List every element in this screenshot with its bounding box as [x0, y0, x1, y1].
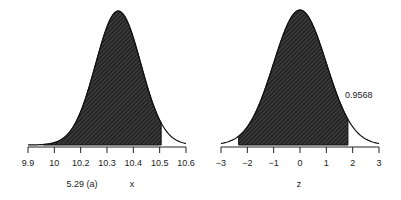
tick-label: 0 [297, 158, 302, 168]
left-x-label: x [130, 179, 135, 189]
tick-label: −2 [242, 158, 252, 168]
right-plot: −3−2−10123 0.9568 z [216, 10, 382, 189]
right-annotation: 0.9568 [345, 90, 373, 100]
tick-label: 3 [376, 158, 381, 168]
tick-label: 10.2 [72, 158, 90, 168]
tick-label: 9.9 [22, 158, 35, 168]
tick-label: 10.3 [98, 158, 116, 168]
tick-label: 1 [324, 158, 329, 168]
tick-label: 10.4 [125, 158, 143, 168]
tick-label: 10.5 [151, 158, 169, 168]
left-plot: 9.91010.210.310.410.510.6 5.29 (a) x [22, 11, 195, 189]
figure: 9.91010.210.310.410.510.6 5.29 (a) x −3−… [0, 0, 401, 200]
left-axis-ticks: 9.91010.210.310.410.510.6 [22, 147, 195, 168]
left-caption: 5.29 (a) [66, 179, 97, 189]
right-x-label: z [297, 179, 302, 189]
tick-label: 2 [350, 158, 355, 168]
tick-label: 10 [49, 158, 59, 168]
tick-label: −3 [216, 158, 226, 168]
tick-label: −1 [269, 158, 279, 168]
left-shaded-area [43, 11, 161, 145]
right-axis-ticks: −3−2−10123 [216, 147, 382, 168]
tick-label: 10.6 [177, 158, 195, 168]
